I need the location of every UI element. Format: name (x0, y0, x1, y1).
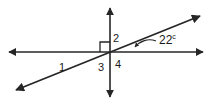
angle-measure-unit: c (172, 33, 176, 40)
geometry-diagram: 1 2 3 4 22c (0, 0, 212, 105)
diagonal-line (16, 16, 200, 90)
angle-label-3: 3 (98, 62, 104, 73)
angle-label-4: 4 (115, 59, 121, 70)
angle-label-1: 1 (59, 62, 65, 73)
angle-measure-label: 22c (159, 33, 176, 46)
angle-label-2: 2 (113, 33, 119, 44)
angle-measure-value: 22 (159, 33, 172, 47)
right-angle-square-icon (100, 42, 110, 52)
geometry-canvas (0, 0, 212, 105)
